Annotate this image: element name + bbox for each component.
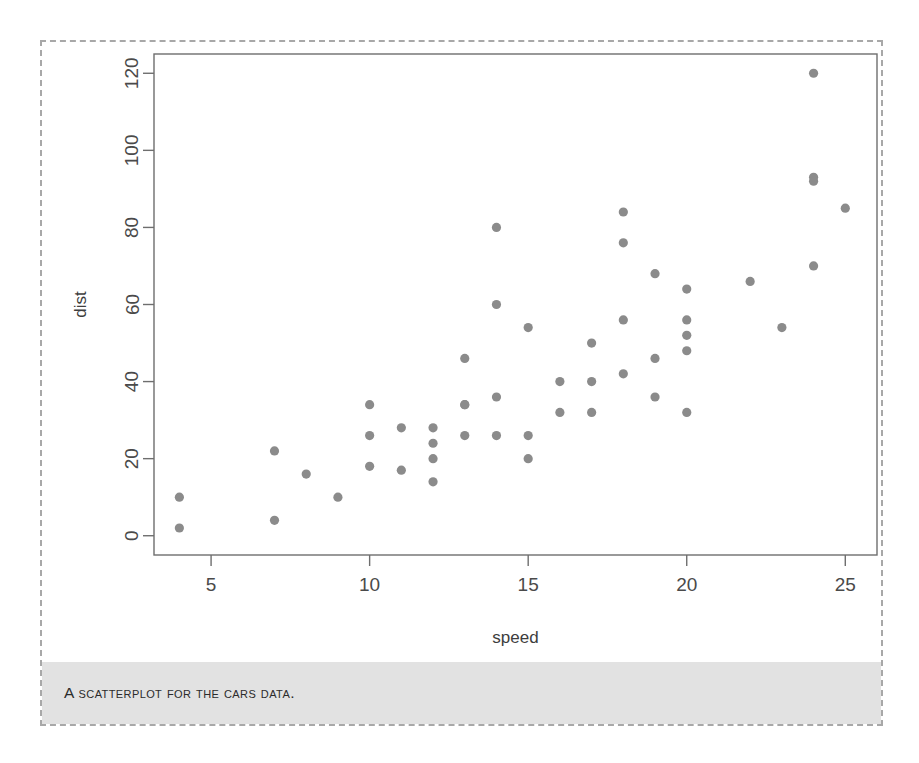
x-tick-label: 25	[835, 574, 856, 595]
x-tick-label: 15	[518, 574, 539, 595]
data-point	[302, 469, 311, 478]
data-point	[682, 408, 691, 417]
data-point	[524, 323, 533, 332]
y-tick-label: 20	[122, 448, 143, 469]
data-point	[809, 261, 818, 270]
scatterplot-canvas[interactable]: 510152025020406080100120speeddist	[42, 42, 885, 662]
data-point	[682, 315, 691, 324]
data-point	[587, 377, 596, 386]
data-point	[619, 369, 628, 378]
data-point	[809, 69, 818, 78]
data-point	[428, 454, 437, 463]
plot-region: 510152025020406080100120speeddist	[42, 42, 885, 662]
data-point	[524, 454, 533, 463]
data-point	[270, 516, 279, 525]
data-point	[746, 277, 755, 286]
data-point	[397, 423, 406, 432]
figure-frame: 510152025020406080100120speeddist A scat…	[40, 40, 883, 726]
data-point	[682, 346, 691, 355]
data-point	[397, 466, 406, 475]
figure-caption: A scatterplot for the cars data.	[42, 684, 295, 702]
data-point	[270, 446, 279, 455]
data-point	[175, 523, 184, 532]
data-point	[492, 431, 501, 440]
x-tick-label: 10	[359, 574, 380, 595]
data-point	[555, 408, 564, 417]
y-tick-label: 120	[122, 57, 143, 89]
data-point	[682, 284, 691, 293]
data-point	[460, 400, 469, 409]
data-point	[492, 392, 501, 401]
data-point	[175, 493, 184, 502]
data-point	[365, 431, 374, 440]
data-point	[428, 439, 437, 448]
data-point	[492, 300, 501, 309]
data-point	[428, 423, 437, 432]
y-tick-label: 60	[122, 294, 143, 315]
y-axis-title: dist	[71, 291, 90, 318]
data-point	[619, 315, 628, 324]
data-point	[650, 392, 659, 401]
data-point	[460, 431, 469, 440]
data-point	[365, 400, 374, 409]
data-point	[460, 354, 469, 363]
data-point	[841, 204, 850, 213]
x-tick-label: 5	[206, 574, 217, 595]
x-tick-label: 20	[676, 574, 697, 595]
data-point	[524, 431, 533, 440]
y-tick-label: 80	[122, 217, 143, 238]
plot-frame	[154, 54, 877, 555]
data-point	[587, 338, 596, 347]
y-tick-label: 40	[122, 371, 143, 392]
data-point	[587, 408, 596, 417]
data-point	[682, 331, 691, 340]
data-point	[365, 462, 374, 471]
y-tick-label: 100	[122, 134, 143, 166]
data-point	[492, 223, 501, 232]
data-point	[809, 173, 818, 182]
data-point	[428, 477, 437, 486]
y-tick-label: 0	[122, 530, 143, 541]
data-point	[650, 354, 659, 363]
data-point	[333, 493, 342, 502]
data-point	[777, 323, 786, 332]
data-point	[619, 207, 628, 216]
data-point	[650, 269, 659, 278]
x-axis-title: speed	[492, 628, 538, 647]
data-point	[619, 238, 628, 247]
caption-band: A scatterplot for the cars data.	[42, 662, 881, 724]
data-point	[555, 377, 564, 386]
